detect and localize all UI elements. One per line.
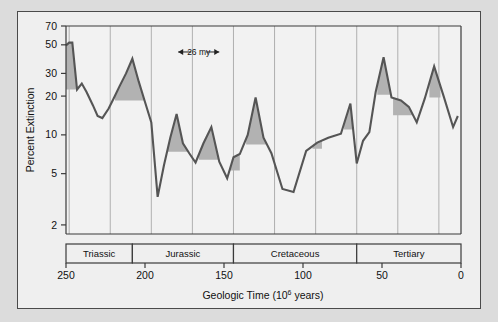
y-tick-label: 10 xyxy=(45,128,57,140)
plot-background xyxy=(66,26,461,234)
x-tick-label: 250 xyxy=(57,269,75,281)
y-tick-label: 2 xyxy=(51,219,57,231)
period-band-label: Cretaceous xyxy=(271,248,320,259)
x-axis-title-tail: years) xyxy=(292,289,324,301)
x-tick-label: 0 xyxy=(458,269,464,281)
x-tick-label: 100 xyxy=(294,269,312,281)
x-tick-label: 150 xyxy=(215,269,233,281)
extinction-chart: 251020305070 TriassicJurassicCretaceousT… xyxy=(18,12,479,307)
figure-frame: 251020305070 TriassicJurassicCretaceousT… xyxy=(17,11,481,309)
y-tick-label: 30 xyxy=(45,67,57,79)
y-tick-group: 251020305070 xyxy=(45,20,66,231)
x-axis-title-main: Geologic Time (10 xyxy=(202,289,287,301)
period-band-label: Tertiary xyxy=(393,248,424,259)
period-band-label: Jurassic xyxy=(165,248,200,259)
figure-container: 251020305070 TriassicJurassicCretaceousT… xyxy=(0,0,498,322)
period-band-group: TriassicJurassicCretaceousTertiary xyxy=(66,244,461,263)
y-tick-label: 20 xyxy=(45,90,57,102)
annotation-label: 26 my xyxy=(187,47,211,57)
y-tick-label: 70 xyxy=(45,20,57,32)
x-tick-label: 50 xyxy=(376,269,388,281)
x-tick-group: 250200150100500 xyxy=(57,263,464,281)
y-tick-label: 50 xyxy=(45,38,57,50)
x-tick-label: 200 xyxy=(136,269,154,281)
y-tick-label: 5 xyxy=(51,167,57,179)
period-band-label: Triassic xyxy=(83,248,116,259)
y-axis-title: Percent Extinction xyxy=(24,88,36,173)
x-axis-title: Geologic Time (106 years) xyxy=(202,289,323,301)
